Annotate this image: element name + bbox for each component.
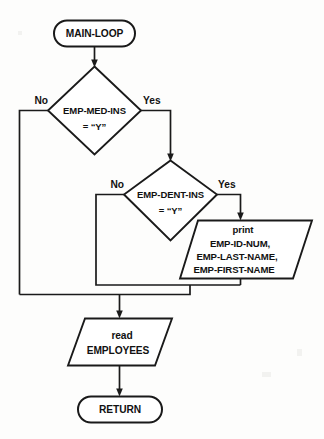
parallelogram-shape-read [68,319,172,366]
branch-label-med-yes: Yes [143,95,161,106]
node-read-io: read EMPLOYEES [68,319,172,366]
flowchart-canvas: MAIN-LOOP EMP-MED-INS = “Y” EMP-DENT-INS… [0,0,324,439]
branch-label-dent-no: No [110,179,124,190]
branch-label-dent-yes: Yes [218,179,236,190]
connector-med-yes [141,111,171,157]
arrowhead-print-top [237,213,244,221]
node-decision-med-line2: = “Y” [83,121,107,132]
node-start-label: MAIN-LOOP [66,28,124,39]
node-read-line2: EMPLOYEES [87,345,150,356]
node-decision-dent-line1: EMP-DENT-INS [137,189,204,200]
node-print-line3: EMP-LAST-NAME, [196,251,278,262]
node-end-terminator: RETURN [78,397,162,423]
node-print-line1: print [233,224,255,235]
scan-speck [262,372,271,377]
node-read-line1: read [111,330,132,341]
arrowhead-return-top [116,389,123,397]
scan-speck [297,349,302,356]
node-decision-dent-line2: = “Y” [159,205,183,216]
connector-med-no [20,111,49,295]
node-end-label: RETURN [99,404,141,415]
node-print-io: print EMP-ID-NUM, EMP-LAST-NAME, EMP-FIR… [180,221,312,279]
scan-speck [18,31,22,35]
node-print-line2: EMP-ID-NUM, [210,238,271,249]
connector-dent-yes [217,195,241,216]
connector-inner-merge-to-bus [20,285,191,295]
node-print-line4: EMP-FIRST-NAME [193,264,275,275]
arrowhead-read-top [116,311,123,319]
branch-label-med-no: No [34,95,48,106]
flowchart-svg: MAIN-LOOP EMP-MED-INS = “Y” EMP-DENT-INS… [0,0,324,439]
node-start-terminator: MAIN-LOOP [54,21,135,47]
node-decision-med: EMP-MED-INS = “Y” [48,67,141,155]
node-decision-med-line1: EMP-MED-INS [63,105,126,116]
